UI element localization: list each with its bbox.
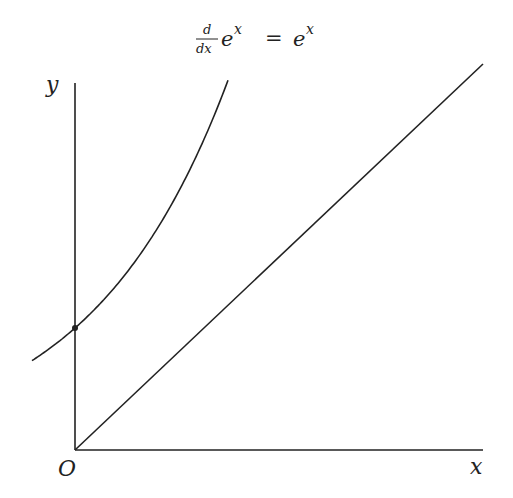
base-right: e [293,27,305,51]
identity-line [75,64,483,450]
origin-label: O [58,456,76,481]
fraction-numerator: d [203,22,211,37]
base-left: e [221,27,233,51]
diagram-canvas: y x O d dx e x = e x [0,0,513,498]
exponent-left: x [234,21,242,37]
equals-sign: = [265,26,283,50]
fraction-denominator: dx [196,41,212,56]
exponent-right: x [306,21,314,37]
derivative-formula: d dx e x = e x [196,21,314,56]
exponential-curve [32,80,228,360]
y-axis-label: y [45,72,59,97]
intercept-point [72,325,78,331]
x-axis-label: x [470,454,483,479]
